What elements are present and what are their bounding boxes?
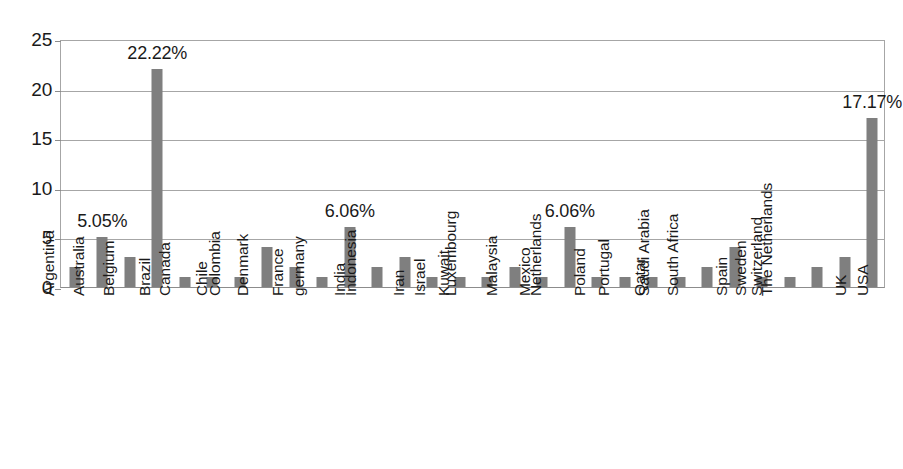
x-axis-tick: Canada (170, 288, 198, 469)
bar-slot (364, 41, 392, 287)
x-axis-tick: Argentina (60, 288, 88, 469)
x-axis-tick: Brazil (143, 288, 171, 469)
x-axis-tick-label: Israel (413, 259, 429, 296)
x-axis-tick: Belgium (115, 288, 143, 469)
bar-slot (391, 41, 419, 287)
x-axis-tick: Colombia (225, 288, 253, 469)
x-axis-tick: Poland (583, 288, 611, 469)
bar-slot (694, 41, 722, 287)
bar-chart: 0510152025 5.05%22.22%6.06%6.06%17.17% A… (0, 0, 903, 469)
x-axis-tick-label: Portugal (595, 239, 611, 296)
x-axis-tick: USA (858, 288, 886, 469)
x-axis-tick-label: France (270, 248, 286, 296)
x-axis-tick-label: South Africa (665, 214, 681, 296)
x-axis-tick: Kuwait (445, 288, 473, 469)
x-axis-tick-label: UK (833, 275, 849, 296)
x-axis-tick-label: Canada (157, 242, 173, 296)
y-axis-tick-label: 25 (10, 30, 52, 49)
x-axis-tick-label: Brazil (137, 258, 153, 296)
x-axis-tick-label: Malaysia (484, 236, 500, 296)
x-axis-tick-label: Spain (714, 257, 730, 296)
bar-slot (776, 41, 804, 287)
x-axis-tick: Denmark (253, 288, 281, 469)
bar[interactable] (372, 267, 383, 287)
bar-slot (309, 41, 337, 287)
x-axis-tick: Iran (390, 288, 418, 469)
x-axis-tick-label: Iran (391, 270, 407, 296)
x-axis-tick-label: Argentina (41, 231, 57, 296)
y-axis-tick-label: 10 (10, 179, 52, 198)
x-axis-tick-label: Belgium (101, 241, 117, 296)
x-axis-tick: Israel (418, 288, 446, 469)
x-axis-tick-label: Denmark (235, 234, 251, 296)
bar-slot (831, 41, 859, 287)
y-axis-tick-label: 20 (10, 80, 52, 99)
bar[interactable] (812, 267, 823, 287)
bar[interactable] (124, 257, 135, 287)
x-axis-tick-label: Sweden (734, 241, 750, 296)
x-axis-tick: Indonesia (363, 288, 391, 469)
bar-slot (804, 41, 832, 287)
bar-slot (116, 41, 144, 287)
x-axis-tick-label: USA (855, 264, 871, 296)
x-axis-tick-label: Colombia (206, 231, 222, 296)
x-axis-tick-label: Netherlands (528, 214, 544, 296)
x-axis-tick-label: Indonesia (343, 230, 359, 296)
x-axis-tick: Malaysia (500, 288, 528, 469)
x-axis-tick-label: Australia (72, 237, 88, 296)
bar[interactable] (179, 277, 190, 287)
x-axis-tick: Mexico (528, 288, 556, 469)
x-axis-tick-label: Luxembourg (444, 211, 460, 296)
bar[interactable] (619, 277, 630, 287)
x-axis: ArgentinaAustraliaBelgiumBrazilCanadaChi… (60, 288, 885, 469)
x-axis-tick: The Netherlands (803, 288, 831, 469)
x-axis-tick: Spain (720, 288, 748, 469)
x-axis-tick: Australia (88, 288, 116, 469)
x-axis-tick: India (335, 288, 363, 469)
x-axis-tick: Portugal (610, 288, 638, 469)
x-axis-tick: Switzerland (775, 288, 803, 469)
x-axis-tick-label: Saudi Arabia (635, 209, 651, 296)
bar-value-label: 17.17% (842, 93, 902, 111)
x-axis-tick: Chile (198, 288, 226, 469)
x-axis-tick: Netherlands (555, 288, 583, 469)
x-axis-tick-label: The Netherlands (760, 183, 776, 296)
y-axis-tick-label: 15 (10, 129, 52, 148)
x-axis-tick: Saudi Arabia (665, 288, 693, 469)
x-axis-tick-label: Poland (572, 248, 588, 296)
x-axis-tick: UK (830, 288, 858, 469)
x-axis-tick: France (280, 288, 308, 469)
x-axis-tick: Luxembourg (473, 288, 501, 469)
x-axis-tick: germany (308, 288, 336, 469)
x-axis-tick: South Africa (693, 288, 721, 469)
x-axis-tick: Qatar (638, 288, 666, 469)
bar[interactable] (867, 118, 878, 287)
bar-slot (171, 41, 199, 287)
bar-slot: 17.17% (859, 41, 887, 287)
bar[interactable] (784, 277, 795, 287)
x-axis-tick-label: germany (291, 236, 307, 296)
bar[interactable] (702, 267, 713, 287)
bar[interactable] (317, 277, 328, 287)
x-axis-tick: Sweden (748, 288, 776, 469)
